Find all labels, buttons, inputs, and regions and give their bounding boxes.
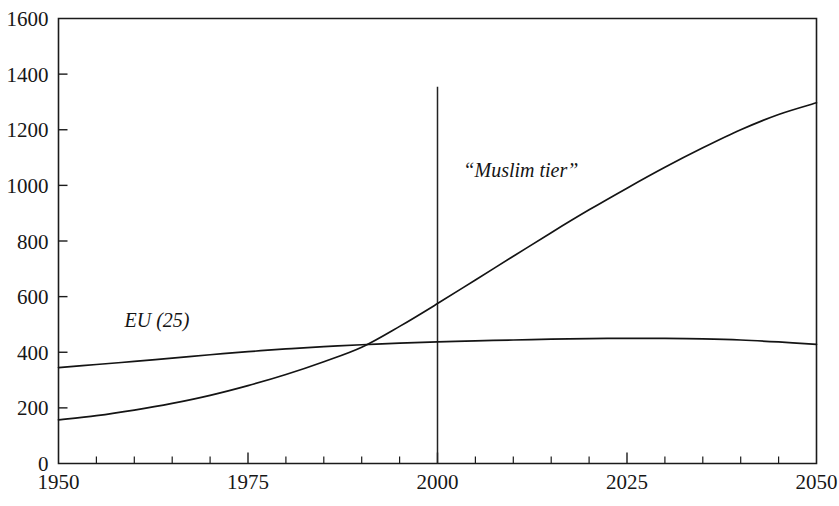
x-tick-label-1950: 1950 xyxy=(38,470,80,494)
y-tick-label-200: 200 xyxy=(17,396,49,420)
chart-figure: 0200400600800100012001400160019501975200… xyxy=(0,0,839,506)
line-chart: 0200400600800100012001400160019501975200… xyxy=(0,0,839,506)
tick-labels: 0200400600800100012001400160019501975200… xyxy=(7,7,838,494)
x-tick-label-1975: 1975 xyxy=(227,470,269,494)
x-tick-label-2025: 2025 xyxy=(606,470,648,494)
y-tick-label-1000: 1000 xyxy=(7,174,49,198)
series-labels: EU (25)“Muslim tier” xyxy=(124,159,579,332)
y-tick-label-1400: 1400 xyxy=(7,63,49,87)
series-label-eu-25: EU (25) xyxy=(124,309,190,332)
series-label-muslim-tier: “Muslim tier” xyxy=(463,159,578,181)
y-tick-label-1600: 1600 xyxy=(7,7,49,31)
y-tick-label-1200: 1200 xyxy=(7,118,49,142)
x-tick-label-2050: 2050 xyxy=(796,470,838,494)
y-tick-label-600: 600 xyxy=(17,285,49,309)
y-tick-label-800: 800 xyxy=(17,230,49,254)
x-tick-label-2000: 2000 xyxy=(417,470,459,494)
y-tick-label-400: 400 xyxy=(17,341,49,365)
